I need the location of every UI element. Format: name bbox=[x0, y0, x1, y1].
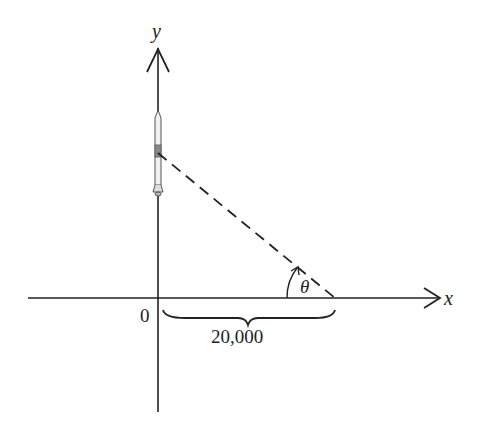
rocket-diagram: y x 0 θ 20,000 bbox=[0, 0, 482, 426]
x-axis-label: x bbox=[443, 287, 453, 309]
distance-label: 20,000 bbox=[211, 326, 263, 347]
angle-label: θ bbox=[300, 276, 309, 297]
y-axis bbox=[147, 48, 169, 412]
angle-arc bbox=[287, 267, 299, 298]
x-axis bbox=[28, 288, 440, 308]
y-axis-label: y bbox=[150, 20, 161, 43]
distance-brace bbox=[163, 310, 335, 325]
origin-label: 0 bbox=[140, 305, 150, 326]
